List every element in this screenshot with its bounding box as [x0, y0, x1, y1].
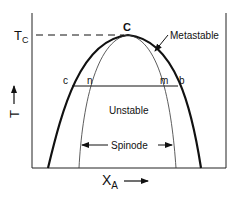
point-n-label: n [87, 75, 93, 86]
phase-diagram: TC T XA C c n m b Metastable Unstable Sp… [0, 0, 238, 199]
point-m-label: m [160, 75, 168, 86]
point-b-label: b [179, 75, 185, 86]
critical-point-label: C [123, 21, 131, 33]
spinode-label: Spinode [111, 140, 148, 151]
point-c-label: c [63, 75, 68, 86]
metastable-leader [155, 35, 168, 51]
y-axis-label: T [7, 110, 22, 118]
tc-label: TC [14, 28, 29, 45]
unstable-label: Unstable [109, 105, 149, 116]
x-axis-label: XA [102, 172, 118, 191]
metastable-label: Metastable [170, 30, 219, 41]
